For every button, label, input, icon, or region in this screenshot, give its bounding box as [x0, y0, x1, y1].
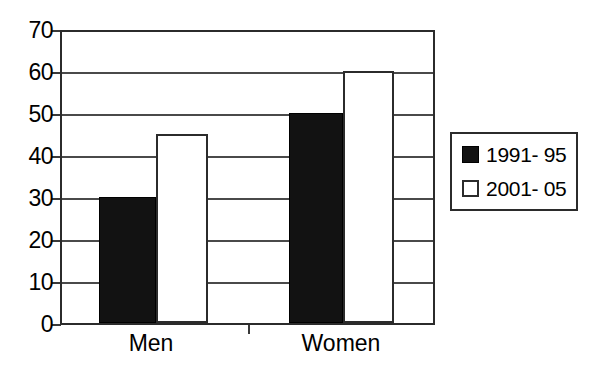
- y-axis-label-30: 30: [28, 187, 53, 210]
- y-axis-label-0: 0: [41, 313, 53, 336]
- legend-label-2001-05: 2001- 05: [486, 178, 567, 199]
- y-axis-label-40: 40: [28, 145, 53, 168]
- y-axis-label-20: 20: [28, 229, 53, 252]
- legend-item-1991-95: 1991- 95: [462, 144, 567, 165]
- legend-label-1991-95: 1991- 95: [486, 144, 567, 165]
- plot-area: [60, 30, 435, 325]
- legend: 1991- 95 2001- 05: [450, 132, 578, 211]
- legend-item-2001-05: 2001- 05: [462, 178, 567, 199]
- bar-chart: 70 60 50 40 30 20 10 0 Men Women 1991- 9…: [0, 0, 615, 365]
- bar-women-1991-95: [289, 113, 343, 323]
- x-axis-group-separator-tick: [248, 325, 250, 334]
- y-axis-label-10: 10: [28, 271, 53, 294]
- legend-swatch-icon-light: [462, 180, 479, 197]
- bar-women-2001-05: [343, 71, 394, 323]
- x-axis-label-men: Men: [92, 331, 210, 356]
- bar-men-2001-05: [156, 134, 208, 323]
- y-axis-label-50: 50: [28, 103, 53, 126]
- x-axis-label-women: Women: [280, 331, 402, 356]
- y-axis-label-70: 70: [28, 19, 53, 42]
- legend-swatch-icon-dark: [462, 146, 479, 163]
- bar-men-1991-95: [99, 197, 156, 323]
- y-axis-label-60: 60: [28, 61, 53, 84]
